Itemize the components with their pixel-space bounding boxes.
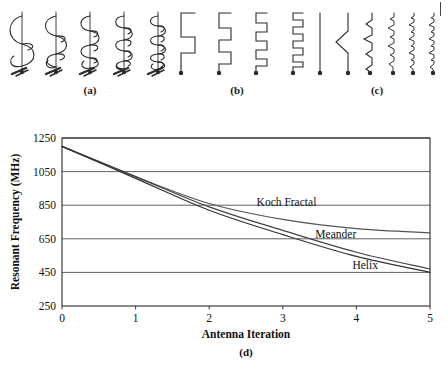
series-label-meander: Meander — [315, 228, 356, 240]
x-tick-label: 1 — [133, 312, 139, 324]
subfigure-label-a: (a) — [70, 84, 110, 96]
koch-iteration-0 — [318, 13, 321, 75]
meander-iteration-0 — [179, 13, 195, 75]
x-tick-label: 0 — [59, 312, 65, 324]
antenna-figure-panel: (a) (b) (c) — [0, 0, 447, 110]
y-tick-label: 450 — [39, 266, 57, 278]
helix-iteration-4 — [148, 12, 166, 76]
resonant-frequency-chart: 25045065085010501250 012345 Koch Fractal… — [0, 110, 447, 371]
chart-plot-frame — [62, 138, 430, 306]
chart-y-tick-labels: 25045065085010501250 — [33, 132, 56, 312]
y-tick-label: 650 — [39, 233, 57, 245]
chart-series-layer — [62, 146, 430, 272]
antenna-illustrations-svg — [0, 6, 447, 84]
helix-iteration-2 — [80, 12, 99, 76]
subfigure-labels-row: (a) (b) (c) — [0, 84, 447, 106]
series-label-helix: Helix — [352, 259, 378, 271]
subfigure-label-d: (d) — [239, 346, 253, 359]
chart-y-axis-label: Resonant Frequency (MHz) — [9, 154, 22, 291]
chart-series-annotations: Koch FractalMeanderHelix — [257, 196, 379, 271]
subfigure-label-b: (b) — [217, 84, 257, 96]
helix-iteration-1 — [46, 12, 67, 76]
chart-x-axis-label: Antenna Iteration — [202, 328, 291, 340]
koch-iteration-1 — [336, 13, 350, 75]
koch-iteration-4 — [409, 13, 415, 75]
koch-iteration-5 — [429, 13, 435, 75]
meander-iteration-2 — [254, 13, 267, 75]
helix-iteration-3 — [114, 12, 132, 76]
series-label-koch-fractal: Koch Fractal — [257, 196, 317, 208]
series-line-meander — [62, 146, 430, 269]
x-tick-label: 5 — [427, 312, 433, 324]
plot-border — [62, 138, 430, 306]
antenna-illustration-row — [0, 6, 447, 84]
x-tick-label: 4 — [354, 312, 360, 324]
chart-x-tick-labels: 012345 — [59, 306, 433, 324]
y-tick-label: 250 — [39, 300, 57, 312]
y-tick-label: 850 — [39, 199, 57, 211]
y-tick-label: 1250 — [33, 132, 56, 144]
resonant-frequency-chart-svg: 25045065085010501250 012345 Koch Fractal… — [0, 110, 447, 371]
x-tick-label: 2 — [206, 312, 212, 324]
koch-iteration-3 — [388, 13, 395, 75]
chart-gridlines — [62, 138, 430, 272]
helix-iteration-0 — [10, 12, 34, 76]
meander-iteration-3 — [291, 13, 303, 75]
meander-iteration-1 — [217, 13, 231, 75]
y-tick-label: 1050 — [33, 166, 56, 178]
x-tick-label: 3 — [280, 312, 286, 324]
subfigure-label-c: (c) — [357, 84, 397, 96]
koch-iteration-2 — [364, 13, 372, 75]
series-line-helix — [62, 146, 430, 272]
series-line-koch-fractal — [62, 146, 430, 233]
